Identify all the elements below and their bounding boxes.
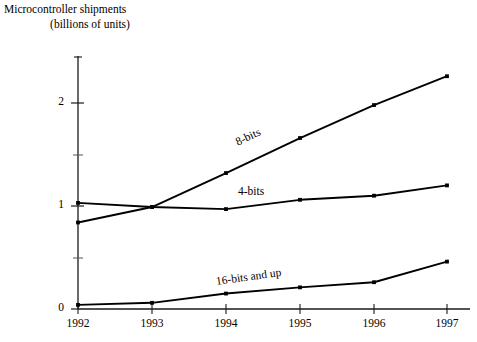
data-point-8-bits-1997	[445, 74, 449, 78]
data-point-8-bits-1992	[76, 221, 80, 225]
x-tick-label-1994: 1994	[201, 317, 251, 329]
data-point-16-bits-and-up-1994	[224, 292, 228, 296]
data-point-16-bits-and-up-1993	[150, 301, 154, 305]
data-point-4-bits-1994	[224, 207, 228, 211]
data-point-4-bits-1992	[76, 201, 80, 205]
microcontroller-shipments-chart: Microcontroller shipments (billions of u…	[0, 0, 477, 342]
x-tick-label-1992: 1992	[53, 317, 103, 329]
data-point-4-bits-1997	[445, 184, 449, 188]
data-point-8-bits-1995	[298, 136, 302, 140]
series-line-8-bits	[78, 76, 447, 222]
data-point-4-bits-1996	[372, 194, 376, 198]
data-point-4-bits-1993	[150, 205, 154, 209]
data-point-16-bits-and-up-1997	[445, 260, 449, 264]
data-point-4-bits-1995	[298, 198, 302, 202]
data-point-8-bits-1996	[372, 103, 376, 107]
data-point-8-bits-1994	[224, 171, 228, 175]
data-point-16-bits-and-up-1995	[298, 285, 302, 289]
series-label-4-bits: 4-bits	[238, 185, 264, 197]
x-tick-label-1995: 1995	[275, 317, 325, 329]
y-tick-label-0: 0	[44, 301, 64, 313]
x-tick-label-1996: 1996	[349, 317, 399, 329]
chart-plot-area	[0, 0, 477, 342]
data-point-16-bits-and-up-1992	[76, 303, 80, 307]
y-tick-label-1: 1	[44, 198, 64, 210]
data-point-16-bits-and-up-1996	[372, 280, 376, 284]
x-tick-label-1993: 1993	[127, 317, 177, 329]
x-tick-label-1997: 1997	[422, 317, 472, 329]
y-tick-label-2: 2	[44, 95, 64, 107]
